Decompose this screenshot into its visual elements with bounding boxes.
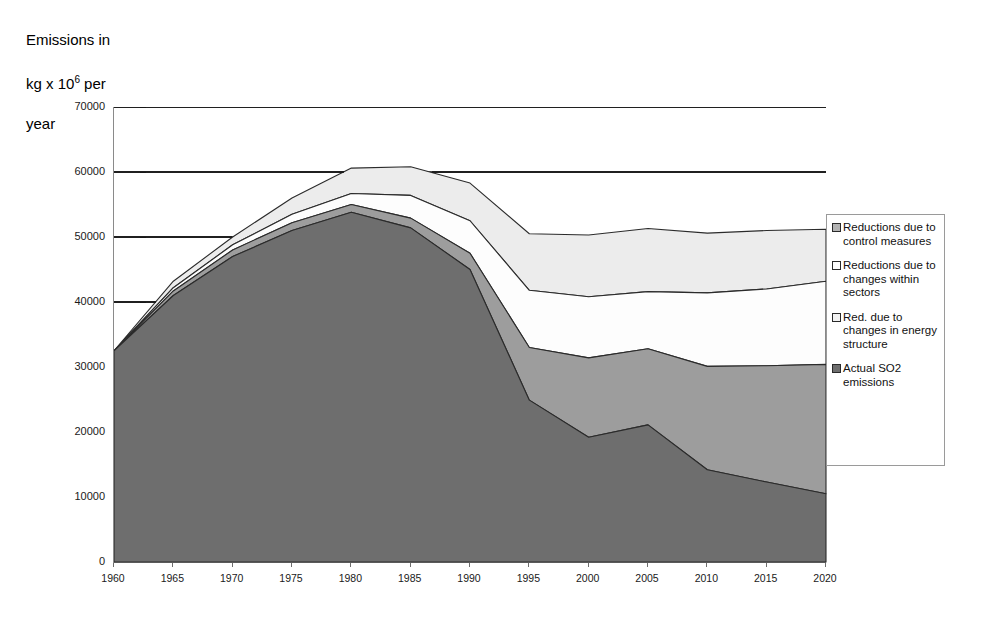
x-axis-tick-label: 1995 (498, 572, 558, 584)
x-axis-tick-label: 1960 (83, 572, 143, 584)
legend-swatch-icon (832, 261, 841, 270)
y-axis-tick-label: 20000 (41, 426, 105, 437)
x-axis-tick-label: 2015 (736, 572, 796, 584)
y-axis-tick-label: 10000 (41, 491, 105, 502)
legend-item-label: Reductions due to changes within sectors (843, 259, 940, 300)
y-axis-tick-label: 70000 (41, 101, 105, 112)
legend-item-actual-so2-emissions[interactable]: Actual SO2 emissions (832, 362, 940, 389)
y-axis-tick-label: 50000 (41, 231, 105, 242)
legend-swatch-icon (832, 364, 841, 373)
legend-swatch-icon (832, 223, 841, 232)
legend-item-label: Actual SO2 emissions (843, 362, 940, 389)
legend-item-label: Red. due to changes in energy structure (843, 311, 940, 352)
legend-swatch-icon (832, 313, 841, 322)
x-axis-tick-label: 1965 (142, 572, 202, 584)
x-axis-tick-label: 2020 (795, 572, 855, 584)
chart-legend: Reductions due to control measuresReduct… (826, 214, 945, 466)
area-bands (114, 167, 826, 562)
y-axis-tick-label: 30000 (41, 361, 105, 372)
x-axis-tick-label: 2000 (558, 572, 618, 584)
plot-area (113, 107, 826, 563)
y-axis: 010000200003000040000500006000070000 (33, 0, 105, 619)
x-axis-tick-label: 1985 (380, 572, 440, 584)
y-axis-tick-label: 0 (41, 556, 105, 567)
legend-item-reductions-control-measures[interactable]: Reductions due to control measures (832, 221, 940, 248)
legend-item-label: Reductions due to control measures (843, 221, 940, 248)
chart-page: Emissions in kg x 106 per year 010000200… (0, 0, 996, 619)
legend-item-reductions-changes-within-sectors[interactable]: Reductions due to changes within sectors (832, 259, 940, 300)
x-axis-tick-label: 1970 (202, 572, 262, 584)
x-axis-tick-label: 2010 (676, 572, 736, 584)
stacked-area-chart (114, 107, 827, 563)
x-axis-tick-label: 2005 (617, 572, 677, 584)
y-axis-tick-label: 40000 (41, 296, 105, 307)
y-axis-tick-label: 60000 (41, 166, 105, 177)
x-axis-tick-label: 1980 (320, 572, 380, 584)
legend-item-red-changes-energy-structure[interactable]: Red. due to changes in energy structure (832, 311, 940, 352)
x-axis-tick-label: 1990 (439, 572, 499, 584)
x-axis-tick-label: 1975 (261, 572, 321, 584)
